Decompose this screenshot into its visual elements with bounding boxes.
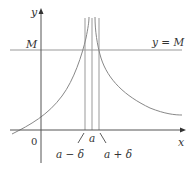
curve-left-branch (12, 17, 89, 134)
x-axis-label: x (178, 136, 185, 149)
a-minus-delta-label: a − δ (56, 148, 84, 160)
y-axis-label: y (30, 6, 38, 19)
y-equals-M-label: y = M (151, 36, 184, 48)
origin-label: 0 (31, 136, 37, 147)
a-plus-delta-label: a + δ (104, 148, 132, 160)
asymptote-diagram: y x 0 M y = M a a − δ a + δ (0, 0, 195, 169)
x-axis-arrow-icon (180, 128, 186, 133)
y-axis-arrow-icon (39, 8, 44, 14)
leader-a-minus-delta (78, 133, 84, 143)
a-label: a (89, 132, 95, 144)
leader-a-plus-delta (100, 133, 106, 143)
curve-right-branch (95, 17, 182, 115)
M-label: M (25, 38, 38, 51)
